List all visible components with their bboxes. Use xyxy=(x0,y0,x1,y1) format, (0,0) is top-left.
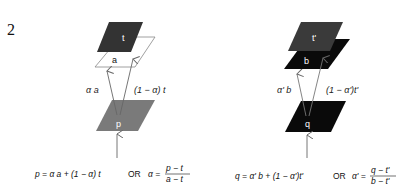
left-diagram: a t p α a (1 − α) t p = α a + (1 − α) t … xyxy=(34,22,190,184)
figure-number: 2 xyxy=(7,21,15,38)
plane-q-label: q xyxy=(305,119,310,129)
arrow-label-one-minus-alpha-prime-t-prime: (1 − α')t' xyxy=(326,85,359,95)
formula-alpha-lhs: α = xyxy=(148,169,160,179)
formula-alpha-prime-lhs: α' = xyxy=(352,171,366,181)
plane-t-prime-label: t' xyxy=(312,33,317,43)
formula-denominator: a − t xyxy=(166,174,183,184)
arrow-label-alpha-a: α a xyxy=(86,85,99,95)
formula-or: OR xyxy=(128,169,141,179)
plane-p-label: p xyxy=(116,119,121,129)
plane-p xyxy=(96,100,155,131)
formula-p: p = α a + (1 − α) t xyxy=(34,169,101,179)
arrow-label-one-minus-alpha-t: (1 − α) t xyxy=(134,85,166,95)
plane-a-label: a xyxy=(112,55,117,65)
right-diagram: b t' q α' b (1 − α')t' q = α' b + (1 − α… xyxy=(235,22,396,186)
compositing-diagram: 2 a t p α a (1 − α) t p = α a + (1 − α) … xyxy=(0,0,401,190)
formula-numerator-right: q − t' xyxy=(371,165,390,175)
plane-b-label: b xyxy=(304,56,309,66)
formula-q: q = α' b + (1 − α')t' xyxy=(235,171,304,181)
plane-q xyxy=(285,101,346,132)
formula-denominator-right: b − t' xyxy=(371,176,390,186)
formula-or-right: OR xyxy=(333,171,346,181)
arrow-label-alpha-prime-b: α' b xyxy=(277,85,291,95)
formula-numerator: p − t xyxy=(165,163,183,173)
